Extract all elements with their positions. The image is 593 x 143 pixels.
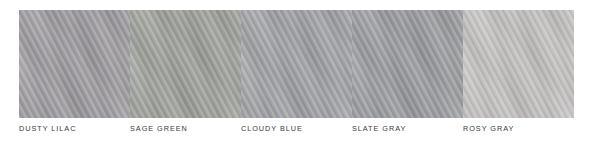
swatch-label-cloudy-blue: CLOUDY BLUE: [241, 122, 352, 136]
swatch-shade-overlay: [130, 10, 241, 118]
color-palette-board: DUSTY LILAC SAGE GREEN CLOUDY BLUE SLATE…: [0, 0, 593, 143]
swatch-label-row: DUSTY LILAC SAGE GREEN CLOUDY BLUE SLATE…: [19, 122, 574, 136]
swatch-shade-overlay: [19, 10, 130, 118]
swatch-label-slate-gray: SLATE GRAY: [352, 122, 463, 136]
swatch-cloudy-blue[interactable]: [241, 10, 352, 118]
swatch-label-rosy-gray: ROSY GRAY: [463, 122, 574, 136]
swatch-shade-overlay: [241, 10, 352, 118]
swatch-sage-green[interactable]: [130, 10, 241, 118]
swatch-band: [19, 10, 574, 118]
swatch-label-dusty-lilac: DUSTY LILAC: [19, 122, 130, 136]
swatch-dusty-lilac[interactable]: [19, 10, 130, 118]
swatch-rosy-gray[interactable]: [463, 10, 574, 118]
swatch-shade-overlay: [463, 10, 574, 118]
swatch-slate-gray[interactable]: [352, 10, 463, 118]
swatch-shade-overlay: [352, 10, 463, 118]
swatch-label-sage-green: SAGE GREEN: [130, 122, 241, 136]
